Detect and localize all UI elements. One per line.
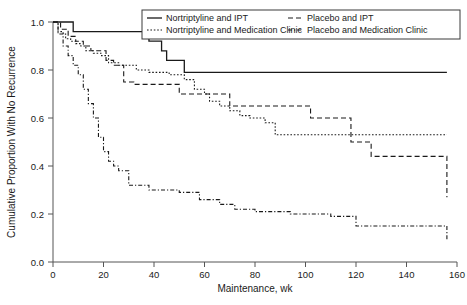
x-tick-label: 160 (449, 269, 465, 280)
y-tick-label: 0.2 (31, 209, 44, 220)
legend-label-2: Nortriptyline and Medication Clinic (166, 25, 303, 35)
y-axis-ticks: 0.00.20.40.60.81.0 (31, 17, 53, 268)
survival-curve-figure: 0.00.20.40.60.81.0 020406080100120140160… (0, 0, 467, 305)
axes-group (53, 22, 457, 262)
y-tick-label: 0.6 (31, 113, 44, 124)
x-axis-ticks: 020406080100120140160 (50, 262, 465, 280)
legend-label-3: Placebo and Medication Clinic (307, 25, 428, 35)
curve-series-2 (53, 22, 447, 197)
legend-label-0: Nortriptyline and IPT (166, 13, 249, 23)
x-tick-label: 140 (399, 269, 415, 280)
x-tick-label: 0 (50, 269, 55, 280)
x-tick-label: 80 (250, 269, 261, 280)
y-tick-label: 0.8 (31, 65, 44, 76)
y-axis-title: Cumulative Proportion With No Recurrence (6, 46, 17, 238)
data-curves-group (53, 22, 447, 240)
y-tick-label: 0.4 (31, 161, 44, 172)
caption-strip (0, 293, 467, 305)
y-tick-label: 1.0 (31, 17, 44, 28)
chart-canvas: 0.00.20.40.60.81.0 020406080100120140160… (0, 0, 467, 305)
x-tick-label: 40 (149, 269, 160, 280)
curve-series-3 (53, 22, 447, 240)
x-tick-label: 120 (348, 269, 364, 280)
legend-label-1: Placebo and IPT (307, 13, 374, 23)
y-tick-label: 0.0 (31, 257, 44, 268)
x-tick-label: 60 (199, 269, 210, 280)
x-tick-label: 100 (298, 269, 314, 280)
x-tick-label: 20 (98, 269, 109, 280)
legend: Nortriptyline and IPTPlacebo and IPTNort… (142, 10, 460, 39)
